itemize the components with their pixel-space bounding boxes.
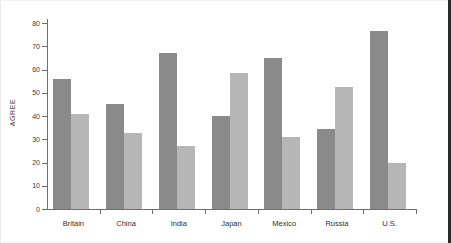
bar-group bbox=[264, 19, 300, 210]
bar-group bbox=[370, 19, 406, 210]
x-axis-separator-tick bbox=[152, 209, 153, 214]
bar bbox=[370, 31, 388, 209]
y-axis-tick-label: 70 bbox=[12, 43, 40, 50]
y-axis-tick bbox=[42, 139, 47, 140]
y-axis-tick bbox=[42, 93, 47, 94]
y-axis-tick-label: 40 bbox=[12, 113, 40, 120]
y-axis-tick-label: 50 bbox=[12, 89, 40, 96]
x-axis-separator-tick bbox=[205, 209, 206, 214]
y-axis-tick-label: 10 bbox=[12, 182, 40, 189]
y-axis-tick bbox=[42, 186, 47, 187]
bar bbox=[230, 73, 248, 209]
y-axis-tick-label: 30 bbox=[12, 136, 40, 143]
plot-area bbox=[47, 19, 416, 210]
bar bbox=[53, 79, 71, 209]
x-axis-tick-label: China bbox=[100, 219, 153, 228]
x-axis-tick-label: Mexico bbox=[258, 219, 311, 228]
bar bbox=[159, 53, 177, 209]
y-axis-tick-label: 0 bbox=[12, 206, 40, 213]
bar-group bbox=[212, 19, 248, 210]
y-axis-tick-label: 20 bbox=[12, 159, 40, 166]
page-edge-left bbox=[0, 0, 1, 243]
bar bbox=[124, 133, 142, 209]
y-axis-tick bbox=[42, 23, 47, 24]
x-axis-separator-tick bbox=[416, 209, 417, 214]
bar bbox=[106, 104, 124, 209]
y-axis-tick-label: 80 bbox=[12, 20, 40, 27]
bar bbox=[282, 137, 300, 209]
bar bbox=[177, 146, 195, 209]
x-axis-tick-label: Britain bbox=[47, 219, 100, 228]
y-axis-tick bbox=[42, 163, 47, 164]
x-axis-tick-label: India bbox=[152, 219, 205, 228]
x-axis-separator-tick bbox=[363, 209, 364, 214]
y-axis-tick bbox=[42, 116, 47, 117]
x-axis-separator-tick bbox=[100, 209, 101, 214]
y-axis-tick bbox=[42, 70, 47, 71]
y-axis-tick bbox=[42, 209, 47, 210]
y-axis-tick-label: 60 bbox=[12, 66, 40, 73]
y-axis-tick-labels: 01020304050607080 bbox=[8, 0, 40, 243]
bar bbox=[264, 58, 282, 209]
x-axis-separator-tick bbox=[311, 209, 312, 214]
bar-group bbox=[159, 19, 195, 210]
page-edge-top bbox=[0, 0, 451, 1]
bar bbox=[335, 87, 353, 209]
bar bbox=[317, 129, 335, 209]
bar bbox=[71, 114, 89, 209]
bar bbox=[388, 163, 406, 210]
x-axis-tick-label: U.S. bbox=[363, 219, 416, 228]
bar-group bbox=[317, 19, 353, 210]
x-axis-separator-tick bbox=[258, 209, 259, 214]
x-axis-tick-label: Japan bbox=[205, 219, 258, 228]
y-axis-tick bbox=[42, 46, 47, 47]
chart-page: AGREE 01020304050607080 BritainChinaIndi… bbox=[0, 0, 451, 243]
bar-group bbox=[53, 19, 89, 210]
bar bbox=[212, 116, 230, 209]
x-axis-tick-label: Russia bbox=[311, 219, 364, 228]
bar-group bbox=[106, 19, 142, 210]
